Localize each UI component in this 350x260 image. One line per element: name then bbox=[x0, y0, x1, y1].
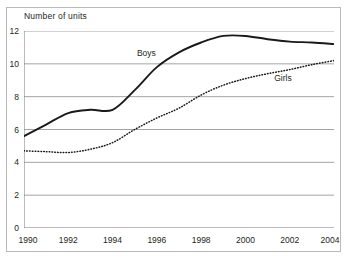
x-tick-label: 1996 bbox=[137, 235, 177, 245]
y-tick-label: 8 bbox=[0, 92, 19, 102]
y-tick-label: 10 bbox=[0, 59, 19, 69]
data-series bbox=[24, 35, 334, 152]
series-label-boys: Boys bbox=[137, 48, 156, 58]
x-tick-label: 2000 bbox=[225, 235, 265, 245]
x-tick-label: 1990 bbox=[8, 235, 48, 245]
chart-svg bbox=[24, 31, 334, 228]
x-tick-label: 2002 bbox=[270, 235, 310, 245]
series-label-girls: Girls bbox=[274, 73, 291, 83]
y-tick-label: 12 bbox=[0, 26, 19, 36]
y-tick-label: 6 bbox=[0, 125, 19, 135]
x-tick-label: 1994 bbox=[93, 235, 133, 245]
y-tick-label: 2 bbox=[0, 190, 19, 200]
x-tick-label: 1998 bbox=[181, 235, 221, 245]
chart-figure: Number of units 024681012 19901992199419… bbox=[0, 0, 350, 260]
y-tick-label: 4 bbox=[0, 157, 19, 167]
plot-area bbox=[24, 31, 334, 228]
y-axis-title: Number of units bbox=[24, 11, 87, 21]
x-tick-label: 1992 bbox=[48, 235, 88, 245]
y-tick-label: 0 bbox=[0, 223, 19, 233]
x-tick-label: 2004 bbox=[310, 235, 350, 245]
